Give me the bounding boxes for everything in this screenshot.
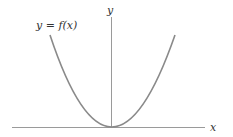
function-label: y = f(x) [35, 19, 77, 32]
parabola-curve [50, 35, 175, 127]
x-axis-label: x [210, 121, 217, 134]
y-axis-label: y [106, 4, 114, 17]
parabola-diagram: x y y = f(x) [0, 0, 233, 137]
